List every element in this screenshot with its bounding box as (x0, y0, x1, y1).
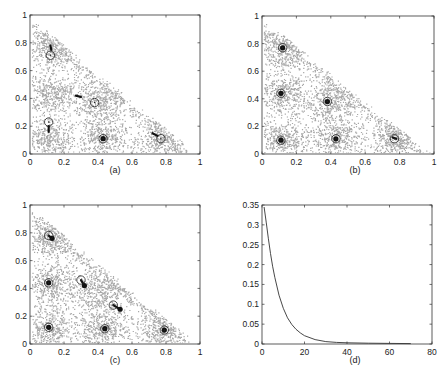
y-tick-label: 0.2 (247, 260, 259, 270)
x-tick-label: 1 (432, 157, 437, 167)
center-dot (48, 282, 50, 284)
line-series (264, 207, 411, 344)
panel-d: 02040608000.050.10.150.20.250.30.35 (d) (224, 190, 448, 377)
center-dot (282, 47, 284, 49)
y-tick-label: 0 (22, 149, 27, 159)
y-tick-label: 1 (254, 11, 259, 21)
y-tick-label: 0.6 (247, 66, 259, 76)
y-tick-label: 0.6 (15, 66, 27, 76)
x-tick-label: 80 (427, 347, 437, 357)
scatter-points (32, 24, 188, 154)
panel-b: 00.20.40.60.8100.20.40.60.81 (b) (224, 0, 448, 188)
x-tick-label: 0.2 (58, 347, 70, 357)
center-dot (102, 138, 104, 140)
x-tick-label: 0.8 (394, 157, 406, 167)
y-tick-label: 0.3 (247, 220, 259, 230)
trajectory-line (76, 96, 81, 97)
y-tick-label: 0 (254, 339, 259, 349)
panel-a: 00.20.40.60.8100.20.40.60.81 (a) (0, 0, 224, 188)
line-plot-d: 02040608000.050.10.150.20.250.30.35 (224, 190, 448, 377)
center-dot (280, 139, 282, 141)
caption-a: (a) (95, 165, 135, 175)
y-tick-label: 0 (254, 149, 259, 159)
y-tick-label: 0.2 (15, 311, 27, 321)
center-dot (50, 55, 52, 57)
x-tick-label: 1 (198, 347, 203, 357)
x-tick-label: 20 (300, 347, 310, 357)
scatter-plot-c: 00.20.40.60.8100.20.40.60.81 (0, 190, 224, 377)
center-dot (94, 102, 96, 104)
center-dot (104, 328, 106, 330)
x-tick-label: 0 (260, 347, 265, 357)
center-dot (48, 327, 50, 329)
caption-c: (c) (95, 355, 135, 365)
y-tick-label: 0.8 (15, 228, 27, 238)
x-tick-label: 0 (260, 157, 265, 167)
y-tick-label: 0.2 (247, 121, 259, 131)
plot-frame (262, 16, 434, 154)
center-dot (48, 121, 50, 123)
center-dot (48, 235, 50, 237)
center-dot (335, 138, 337, 140)
data-points (264, 24, 431, 154)
center-dot (160, 138, 162, 140)
y-tick-label: 1 (22, 10, 27, 20)
y-tick-label: 0 (22, 339, 27, 349)
y-tick-label: 0.1 (247, 299, 259, 309)
x-tick-label: 1 (198, 157, 203, 167)
y-tick-label: 0.15 (242, 279, 259, 289)
center-dot (394, 138, 396, 140)
x-tick-label: 0.2 (290, 157, 302, 167)
data-points (32, 24, 188, 154)
plot-frame (262, 205, 432, 344)
y-tick-label: 1 (22, 200, 27, 210)
caption-b: (b) (335, 165, 375, 175)
y-tick-label: 0.4 (15, 93, 27, 103)
scatter-plot-b: 00.20.40.60.8100.20.40.60.81 (224, 0, 448, 188)
x-tick-label: 0.2 (58, 157, 70, 167)
panel-c: 00.20.40.60.8100.20.40.60.81 (c) (0, 190, 224, 377)
center-dot (280, 92, 282, 94)
caption-d: (d) (335, 355, 375, 365)
scatter-points (264, 24, 431, 154)
y-tick-label: 0.4 (15, 283, 27, 293)
center-dot (80, 279, 82, 281)
x-tick-label: 0.8 (160, 347, 172, 357)
center-dot (164, 329, 166, 331)
estimate-marker (118, 307, 123, 312)
trajectory-line (50, 46, 51, 50)
y-tick-label: 0.35 (242, 200, 259, 210)
y-tick-label: 0.6 (15, 256, 27, 266)
x-tick-label: 0 (28, 157, 33, 167)
data-points (32, 212, 190, 344)
y-tick-label: 0.05 (242, 319, 259, 329)
scatter-plot-a: 00.20.40.60.8100.20.40.60.81 (0, 0, 224, 188)
center-dot (113, 304, 115, 306)
y-tick-label: 0.8 (15, 38, 27, 48)
scatter-points (32, 212, 190, 344)
x-tick-label: 0.8 (160, 157, 172, 167)
x-tick-label: 0 (28, 347, 33, 357)
plot-frame (30, 205, 200, 344)
y-tick-label: 0.8 (247, 39, 259, 49)
y-tick-label: 0.4 (247, 94, 259, 104)
y-tick-label: 0.2 (15, 121, 27, 131)
y-tick-label: 0.25 (242, 240, 259, 250)
center-dot (327, 101, 329, 103)
x-tick-label: 60 (385, 347, 395, 357)
